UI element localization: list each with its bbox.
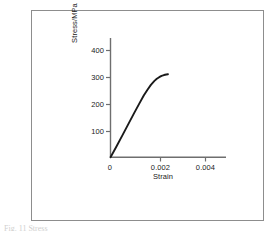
x-tick-label-0: 0	[101, 163, 119, 172]
stress-strain-curve	[111, 74, 168, 157]
x-tick-label-0.004: 0.004	[188, 163, 223, 172]
chart-canvas	[0, 0, 273, 234]
caption-remnant: Fig. 11 Stress	[4, 224, 48, 231]
x-axis-title: Strain	[118, 172, 208, 181]
y-tick-label-400: 400	[80, 46, 104, 55]
stress-strain-chart: 400 300 200 100 0 0.002 0.004 Stress/MPa…	[0, 0, 273, 234]
y-tick-label-200: 200	[80, 100, 104, 109]
y-tick-label-100: 100	[80, 127, 104, 136]
y-tick-label-300: 300	[80, 73, 104, 82]
x-tick-label-0.002: 0.002	[143, 163, 178, 172]
y-axis-title: Stress/MPa	[70, 0, 79, 58]
